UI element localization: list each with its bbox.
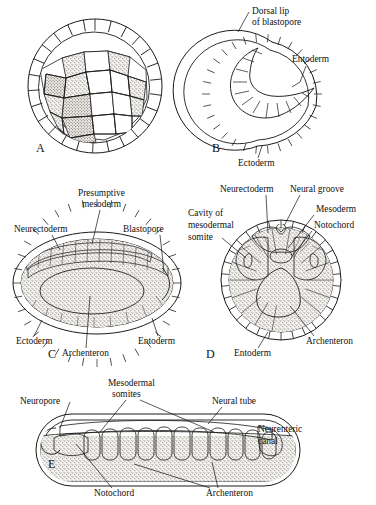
label-neuropore-e: Neuropore: [20, 396, 60, 406]
label-notochord-e: Notochord: [94, 488, 134, 498]
panel-letter-a: A: [36, 141, 45, 155]
label-entoderm-d: Entoderm: [234, 348, 272, 358]
label-entoderm-c: Entoderm: [138, 336, 176, 346]
label-neurenteric-canal-line2: canal: [258, 436, 278, 446]
panel-letter-c: C: [48, 347, 56, 361]
label-mesodermal-somites-line1: Mesodermal: [108, 378, 155, 388]
label-notochord-d: Notochord: [314, 220, 354, 230]
label-entoderm-b: Entoderm: [292, 54, 330, 64]
label-archenteron-c: Archenteron: [62, 348, 109, 358]
label-presumptive-mesoderm-line1: Presumptive: [78, 188, 125, 198]
label-ectoderm-c: Ectoderm: [16, 336, 53, 346]
label-cavity-somite-line1: Cavity of: [188, 208, 224, 218]
label-neurectoderm-c: Neurectoderm: [14, 224, 68, 234]
label-cavity-somite-line3: somite: [188, 232, 213, 242]
label-dorsal-lip-line1: Dorsal lip: [252, 6, 290, 16]
label-neural-groove-d: Neural groove: [290, 184, 344, 194]
label-neurenteric-canal-line1: Neurenteric: [258, 424, 302, 434]
panel-letter-d: D: [206, 347, 215, 361]
label-neural-tube-e: Neural tube: [212, 396, 256, 406]
label-archenteron-d: Archenteron: [306, 336, 353, 346]
label-mesoderm-d: Mesoderm: [316, 204, 357, 214]
label-neurectoderm-d: Neurectoderm: [220, 184, 274, 194]
label-mesodermal-somites-line2: somites: [112, 389, 141, 399]
label-ectoderm-b: Ectoderm: [238, 158, 275, 168]
label-archenteron-e: Archenteron: [206, 488, 253, 498]
label-cavity-somite-line2: mesodermal: [188, 220, 234, 230]
label-dorsal-lip-line2: of blastopore: [252, 17, 301, 27]
label-blastopore-c: Blastopore: [123, 224, 164, 234]
panel-letter-e: E: [48, 457, 55, 471]
embryology-figure: A: [0, 0, 376, 505]
label-presumptive-mesoderm-line2: mesoderm: [82, 199, 122, 209]
panel-letter-b: B: [212, 141, 220, 155]
